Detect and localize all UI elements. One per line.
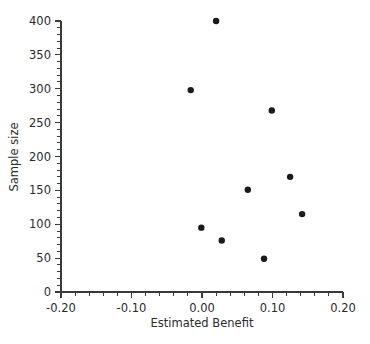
y-tick-label-0: 0 [44,285,51,299]
x-axis-title: Estimated Benefit [151,316,254,330]
y-tick-label-350: 350 [29,48,51,62]
y-axis-title: Sample size [7,122,21,191]
x-tick-label-0.10: 0.10 [260,301,286,315]
y-tick-label-50: 50 [36,251,51,265]
plot-canvas: 050100150200250300350400 -0.20-0.100.000… [0,0,370,344]
x-axis-tick-labels: -0.20-0.100.000.100.20 [46,301,356,315]
data-point [219,237,225,243]
y-tick-label-250: 250 [29,116,51,130]
y-tick-label-100: 100 [29,217,51,231]
x-tick-label-0.00: 0.00 [189,301,215,315]
data-point [188,87,194,93]
data-point [198,224,204,230]
data-point [213,18,219,24]
x-tick-label--0.20: -0.20 [46,301,76,315]
y-tick-label-400: 400 [29,14,51,28]
data-point [245,186,251,192]
data-point [299,211,305,217]
x-tick-label-0.20: 0.20 [330,301,356,315]
y-tick-label-200: 200 [29,150,51,164]
y-axis-tick-labels: 050100150200250300350400 [29,14,51,299]
data-point [287,174,293,180]
data-point-group [188,18,306,262]
y-tick-label-300: 300 [29,82,51,96]
scatter-plot-figure: 050100150200250300350400 -0.20-0.100.000… [0,0,370,344]
data-point [261,256,267,262]
x-tick-label--0.10: -0.10 [117,301,147,315]
y-tick-label-150: 150 [29,183,51,197]
data-point [269,107,275,113]
